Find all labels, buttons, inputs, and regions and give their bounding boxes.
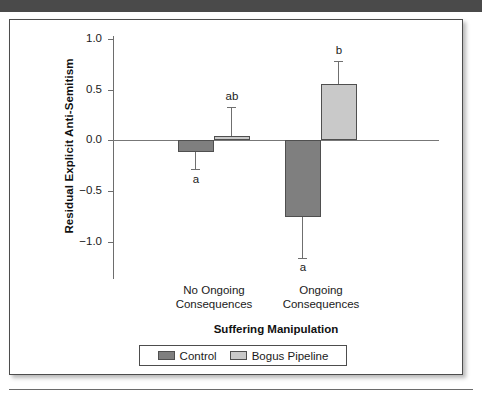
sig-label-control-ongoing: a: [283, 261, 323, 273]
x-group-label-ongoing-line2: Consequences: [256, 297, 386, 311]
legend-label-control: Control: [180, 350, 217, 362]
y-tick-mark-1: [108, 39, 114, 40]
y-tick-label-3: 0.0: [56, 133, 102, 145]
sig-label-bogus-ongoing: b: [319, 44, 359, 56]
y-tick-mark-4: [108, 191, 114, 192]
errorbar-line-bogus-no-ongoing: [231, 107, 232, 136]
legend-item-bogus-pipeline: Bogus Pipeline: [230, 350, 329, 362]
errorbar-line-control-no-ongoing: [195, 152, 196, 169]
errorbar-line-bogus-ongoing: [338, 61, 339, 84]
errorbar-cap-control-no-ongoing: [191, 169, 200, 170]
bar-bogus-ongoing: [321, 84, 357, 140]
sig-label-control-no-ongoing: a: [176, 173, 216, 185]
figure-page: Residual Explicit Anti-Semitism 1.0 0.5 …: [0, 0, 482, 398]
sig-label-bogus-no-ongoing: ab: [212, 90, 252, 102]
y-tick-label-2: 0.5: [56, 83, 102, 95]
x-group-label-ongoing-line1: Ongoing: [256, 283, 386, 297]
bar-control-no-ongoing: [178, 140, 214, 152]
errorbar-cap-control-ongoing: [298, 258, 307, 259]
legend-swatch-bogus-pipeline-icon: [230, 351, 247, 360]
errorbar-line-control-ongoing: [302, 217, 303, 258]
legend-swatch-control-icon: [158, 351, 175, 360]
y-tick-mark-5: [108, 242, 114, 243]
x-group-label-ongoing: Ongoing Consequences: [256, 283, 386, 311]
bar-bogus-no-ongoing: [214, 136, 250, 140]
y-tick-mark-2: [108, 90, 114, 91]
bar-control-ongoing: [285, 140, 321, 217]
y-tick-label-1: 1.0: [56, 32, 102, 44]
legend-item-control: Control: [158, 350, 217, 362]
errorbar-cap-bogus-no-ongoing: [227, 107, 236, 108]
chart-legend: Control Bogus Pipeline: [139, 345, 347, 366]
y-axis-title: Residual Explicit Anti-Semitism: [63, 31, 75, 261]
bottom-divider-rule: [9, 389, 473, 390]
y-tick-label-5: −1.0: [56, 235, 102, 247]
y-tick-label-4: −0.5: [56, 184, 102, 196]
errorbar-cap-bogus-ongoing: [334, 61, 343, 62]
x-axis-title: Suffering Manipulation: [113, 323, 439, 335]
zero-baseline: [113, 140, 439, 141]
legend-label-bogus-pipeline: Bogus Pipeline: [252, 350, 329, 362]
chart-plot-area: Residual Explicit Anti-Semitism 1.0 0.5 …: [0, 0, 482, 398]
